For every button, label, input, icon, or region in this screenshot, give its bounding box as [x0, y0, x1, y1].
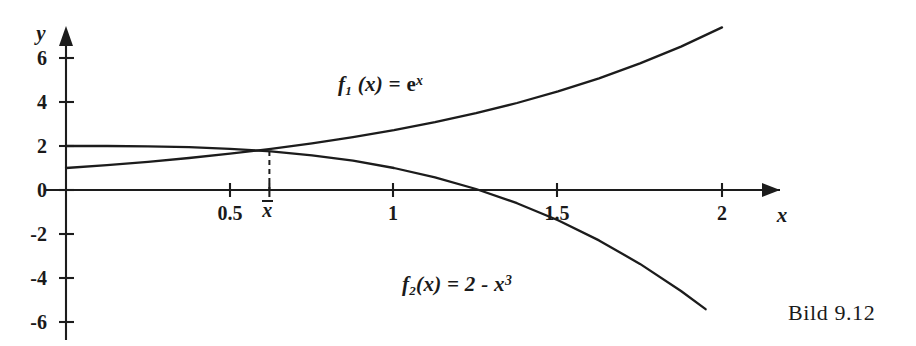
- y-tick-label-minus4: -4: [30, 267, 47, 289]
- y-tick-label-minus6: -6: [30, 311, 47, 333]
- x-axis-label: x: [776, 203, 788, 227]
- y-axis-label: y: [33, 21, 46, 45]
- f2-x: x: [494, 272, 505, 296]
- y-tick-label-4: 4: [37, 91, 47, 113]
- curve-f2: [66, 146, 706, 309]
- f2-exponent: 3: [505, 273, 512, 288]
- x-tick-label-1: 1: [388, 202, 398, 224]
- xbar-letter: x: [262, 199, 272, 221]
- y-tick-label-minus2: -2: [30, 223, 47, 245]
- f1-exponent: x: [416, 73, 423, 88]
- figure-container: 0.5 1 1.5 2 6 4 2 0 -2 -4 -6 y x f1 (x) …: [0, 0, 916, 346]
- curve-label-f2: f2(x) = 2 - x3: [402, 272, 512, 299]
- x-tick-label-2: 2: [717, 202, 727, 224]
- f1-argument: (x) =: [352, 72, 406, 96]
- curve-label-f1: f1 (x) = ex: [338, 72, 423, 99]
- figure-caption: Bild 9.12: [788, 300, 875, 326]
- x-tick-label-xbar: x: [262, 200, 273, 222]
- f1-e: e: [406, 72, 416, 96]
- x-axis-arrow-icon: [762, 183, 780, 197]
- f2-rest: (x) = 2 -: [416, 272, 494, 296]
- y-tick-label-0: 0: [37, 179, 47, 201]
- y-tick-label-6: 6: [37, 47, 47, 69]
- x-tick-label-0.5: 0.5: [218, 202, 243, 224]
- y-axis-arrow-icon: [59, 26, 73, 46]
- y-tick-label-2: 2: [37, 135, 47, 157]
